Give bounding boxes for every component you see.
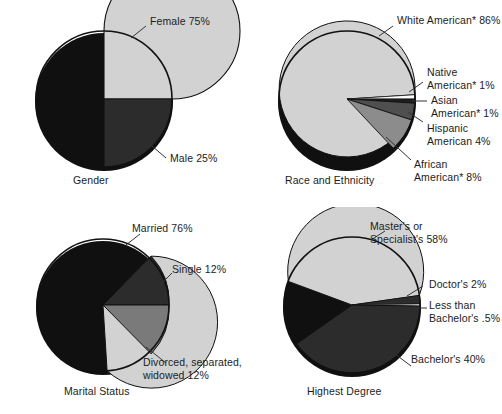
panel-marital-status: Married 76% Single 12% Divorced, separat…	[0, 207, 251, 414]
gender-slice-male	[104, 99, 172, 167]
degree-leader-bachelors	[395, 354, 411, 366]
gender-label-female: Female 75%	[150, 15, 210, 28]
race-label-native-american-line1: Native	[427, 66, 457, 79]
degree-label-less-than-bachelors-line1: Less than	[429, 299, 475, 312]
panel-highest-degree: Master's or Specialist's 58% Doctor's 2%…	[251, 207, 502, 414]
marital-label-divorced-line2: widowed 12%	[143, 369, 209, 382]
degree-label-bachelors: Bachelor's 40%	[411, 353, 485, 366]
race-caption: Race and Ethnicity	[285, 174, 374, 187]
race-label-white-american: White American* 86%	[397, 14, 500, 27]
panel-gender: Female 75% Male 25% Gender	[0, 0, 251, 207]
marital-label-divorced-line1: Divorced, separated,	[143, 356, 242, 369]
race-label-african-american-line1: African	[414, 158, 447, 171]
race-label-asian-american-line1: Asian	[431, 94, 458, 107]
degree-caption: Highest Degree	[307, 385, 381, 398]
race-label-hispanic-american-line1: Hispanic	[427, 122, 468, 135]
race-label-hispanic-american-line2: American 4%	[427, 135, 491, 148]
marital-label-single: Single 12%	[172, 263, 226, 276]
degree-label-masters-line1: Master's or	[370, 220, 423, 233]
marital-leader-married	[126, 234, 140, 245]
race-label-african-american-line2: American* 8%	[414, 171, 482, 184]
gender-pie-svg	[0, 0, 251, 207]
degree-label-less-than-bachelors-line2: Bachelor's .5%	[429, 312, 500, 325]
gender-caption: Gender	[73, 174, 109, 187]
race-label-native-american-line2: American* 1%	[427, 79, 495, 92]
panel-race-ethnicity: White American* 86% Native American* 1% …	[251, 0, 502, 207]
race-label-asian-american-line2: American* 1%	[431, 107, 499, 120]
degree-label-doctors: Doctor's 2%	[429, 278, 486, 291]
degree-label-masters-line2: Specialist's 58%	[370, 233, 448, 246]
marital-pie-svg	[0, 207, 251, 414]
marital-label-married: Married 76%	[132, 222, 193, 235]
pie-chart-figure: Female 75% Male 25% Gender White	[0, 0, 502, 414]
gender-leader-male	[152, 146, 166, 158]
marital-caption: Marital Status	[64, 385, 130, 398]
gender-label-male: Male 25%	[170, 152, 218, 165]
